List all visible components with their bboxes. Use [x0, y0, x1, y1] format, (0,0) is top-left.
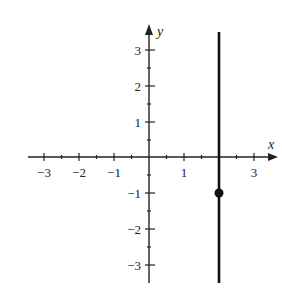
x-axis-label: x	[267, 137, 275, 152]
x-tick-label: −1	[107, 165, 121, 180]
y-tick-label: 2	[135, 79, 142, 94]
y-axis-arrow-icon	[145, 24, 153, 35]
y-tick-label: 1	[135, 115, 142, 130]
y-axis-label: y	[155, 24, 164, 39]
y-tick-label: −3	[127, 258, 141, 273]
x-tick-label: 1	[181, 165, 188, 180]
x-tick-label: −2	[72, 165, 86, 180]
x-axis-arrow-icon	[268, 153, 278, 161]
point-2-neg1	[215, 189, 224, 198]
x-tick-label: 3	[251, 165, 258, 180]
y-tick-label: −1	[127, 186, 141, 201]
y-tick-label: 3	[135, 43, 142, 58]
x-tick-label: −3	[37, 165, 51, 180]
y-tick-label: −2	[127, 222, 141, 237]
coordinate-plane: −3 −2 −1 1 3 3 2 1 −1 −2 −3 y x	[0, 0, 282, 302]
